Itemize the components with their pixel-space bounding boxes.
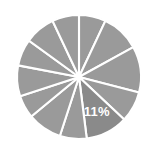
pie-labels-group: 11%	[84, 104, 110, 119]
pie-chart-svg: 11%	[0, 0, 158, 155]
pie-chart-container: 11%	[0, 0, 158, 155]
pie-slice-percent-label: 11%	[84, 104, 110, 119]
pie-slices-group	[17, 15, 141, 139]
